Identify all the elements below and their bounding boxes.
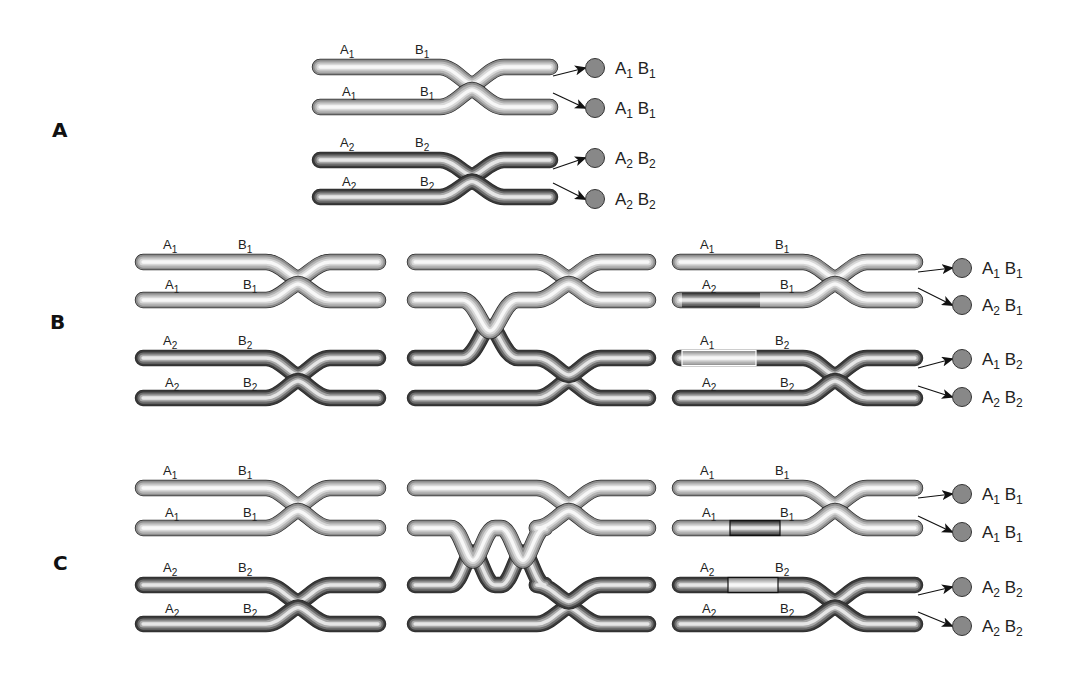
gamete-b-2: A2 B1 bbox=[918, 288, 1023, 318]
gamete-circle-icon bbox=[953, 578, 972, 597]
gamete-circle-icon bbox=[586, 149, 605, 168]
chromatid-2-crossing bbox=[415, 284, 648, 331]
locus-label-b: B2 bbox=[415, 135, 430, 153]
arrow-icon bbox=[918, 288, 952, 305]
chromatid-3 bbox=[143, 585, 378, 602]
arrow-icon bbox=[918, 587, 952, 595]
chromatid-4 bbox=[415, 381, 648, 398]
gamete-b-4: A2 B2 bbox=[918, 386, 1023, 410]
arrow-icon bbox=[918, 268, 952, 272]
gamete-circle-icon bbox=[586, 190, 605, 209]
gamete-b-3: A1 B2 bbox=[918, 350, 1023, 373]
gamete-circle-icon bbox=[586, 59, 605, 78]
chromatid-3 bbox=[680, 351, 915, 376]
chromatid-2-crossing bbox=[415, 511, 648, 561]
arrow-icon bbox=[918, 359, 952, 368]
locus-label-b: B1 bbox=[775, 237, 790, 255]
locus-label-b: B1 bbox=[775, 463, 790, 481]
section-label-c: C bbox=[53, 551, 68, 575]
gamete-genotype: A2 B2 bbox=[982, 578, 1023, 600]
gamete-c-4: A2 B2 bbox=[918, 612, 1023, 639]
locus-label-a: A2 bbox=[340, 135, 355, 153]
gamete-c-3: A2 B2 bbox=[918, 578, 1023, 601]
chromatid-1 bbox=[415, 262, 648, 278]
locus-label-b: B1 bbox=[238, 237, 253, 255]
gamete-genotype: A2 B2 bbox=[982, 388, 1023, 410]
gamete-genotype: A2 B2 bbox=[615, 190, 656, 212]
diagram-content: A1B1A1B1A2B2A2B2A1 B1A1 B1A2 B2A2 B2A1B1… bbox=[143, 42, 1023, 639]
locus-label-a: A2 bbox=[163, 333, 178, 351]
gamete-c-1: A1 B1 bbox=[918, 485, 1023, 508]
gamete-genotype: A2 B2 bbox=[982, 617, 1023, 639]
gamete-b-1: A1 B1 bbox=[918, 259, 1023, 282]
gamete-a-3: A2 B2 bbox=[553, 149, 656, 172]
gamete-genotype: A1 B2 bbox=[982, 350, 1023, 372]
locus-label-b: B2 bbox=[238, 560, 253, 578]
gamete-c-2: A1 B1 bbox=[918, 516, 1023, 545]
section-label-a: A bbox=[52, 118, 68, 142]
gamete-a-1: A1 B1 bbox=[553, 59, 656, 82]
section-c-double-crossover-panel bbox=[415, 488, 648, 624]
locus-label-a: A1 bbox=[340, 42, 355, 60]
gamete-genotype: A1 B1 bbox=[615, 59, 656, 81]
gamete-genotype: A1 B1 bbox=[615, 99, 656, 121]
gamete-circle-icon bbox=[953, 485, 972, 504]
chromatid-1 bbox=[680, 262, 915, 278]
locus-label-a: A2 bbox=[700, 560, 715, 578]
locus-label-b: B2 bbox=[775, 333, 790, 351]
gamete-genotype: A1 B1 bbox=[982, 523, 1023, 545]
gamete-genotype: A1 B1 bbox=[982, 485, 1023, 507]
locus-label-a: A2 bbox=[163, 560, 178, 578]
section-a-final-panel: A1B1A1B1A2B2A2B2A1 B1A1 B1A2 B2A2 B2 bbox=[320, 42, 656, 212]
section-b-single-crossover-panel bbox=[415, 262, 648, 398]
chromatid-1 bbox=[143, 262, 378, 278]
section-c-after-panel: A1B1A1B1A2B2A2B2A1 B1A1 B1A2 B2A2 B2 bbox=[680, 463, 1023, 639]
chromatid-1 bbox=[143, 488, 378, 505]
gamete-a-2: A1 B1 bbox=[553, 93, 656, 121]
meiosis-crossover-diagram: A B C A1B1A1B1A2B2A2B2A1 B1A1 B1A2 B2A2 … bbox=[0, 0, 1081, 683]
chromatid-3 bbox=[143, 358, 378, 375]
chromatid-1 bbox=[680, 488, 915, 505]
gamete-circle-icon bbox=[953, 296, 972, 315]
locus-label-a: A1 bbox=[700, 463, 715, 481]
locus-label-b: B2 bbox=[238, 333, 253, 351]
section-label-b: B bbox=[50, 310, 65, 334]
locus-label-a: A1 bbox=[700, 333, 715, 351]
section-b-after-panel: A1B1A2B1A1B2A2B2A1 B1A2 B1A1 B2A2 B2 bbox=[680, 237, 1023, 410]
chromatid-1 bbox=[415, 488, 648, 505]
arrow-icon bbox=[918, 386, 952, 397]
locus-label-b: B1 bbox=[238, 463, 253, 481]
arrow-icon bbox=[918, 494, 952, 498]
gamete-circle-icon bbox=[586, 99, 605, 118]
chromatid-4 bbox=[415, 608, 648, 625]
gamete-circle-icon bbox=[953, 523, 972, 542]
locus-label-a: A1 bbox=[163, 237, 178, 255]
locus-label-a: A1 bbox=[163, 463, 178, 481]
section-c-before-panel: A1B1A1B1A2B2A2B2 bbox=[143, 463, 378, 624]
gamete-genotype: A2 B2 bbox=[615, 149, 656, 171]
section-b-before-panel: A1B1A1B1A2B2A2B2 bbox=[143, 237, 378, 398]
chromatid-1 bbox=[320, 67, 550, 84]
chromatid-3 bbox=[680, 578, 915, 602]
gamete-genotype: A2 B1 bbox=[982, 296, 1023, 318]
locus-label-b: B1 bbox=[415, 42, 430, 60]
gamete-circle-icon bbox=[953, 350, 972, 369]
locus-label-a: A1 bbox=[700, 237, 715, 255]
gamete-a-4: A2 B2 bbox=[553, 183, 656, 212]
gamete-genotype: A1 B1 bbox=[982, 259, 1023, 281]
gamete-circle-icon bbox=[953, 388, 972, 407]
gamete-circle-icon bbox=[953, 617, 972, 636]
chromatid-3-crossing bbox=[415, 327, 648, 375]
chromatid-3 bbox=[320, 160, 550, 176]
locus-label-b: B2 bbox=[775, 560, 790, 578]
gamete-circle-icon bbox=[953, 259, 972, 278]
arrow-icon bbox=[918, 516, 952, 532]
